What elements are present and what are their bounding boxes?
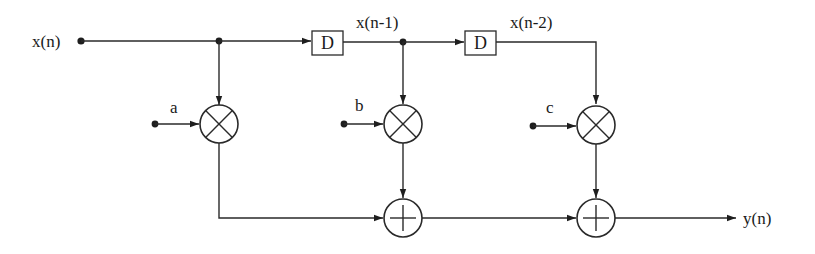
coef-b-label: b <box>355 96 364 115</box>
x-n-1-label: x(n-1) <box>356 13 398 32</box>
adder-2 <box>577 199 615 237</box>
multiplier-c <box>577 106 615 144</box>
output-label: y(n) <box>743 209 771 228</box>
multiplier-b <box>384 105 422 143</box>
input-label: x(n) <box>32 32 60 51</box>
adder-1 <box>384 199 422 237</box>
wire-delay-2-to-mult-c <box>496 42 596 104</box>
multiplier-a <box>200 105 238 143</box>
x-n-2-label: x(n-2) <box>510 13 552 32</box>
delay-block-1: D <box>312 31 343 55</box>
coef-c-label: c <box>546 98 554 117</box>
delay-1-label: D <box>321 33 334 53</box>
fir-filter-diagram: x(n) D x(n-1) D x(n-2) a b c <box>0 0 815 254</box>
wire-mult-a-to-adder-1 <box>219 143 383 218</box>
delay-2-label: D <box>474 33 487 53</box>
delay-block-2: D <box>465 31 496 55</box>
coef-a-label: a <box>170 98 178 117</box>
